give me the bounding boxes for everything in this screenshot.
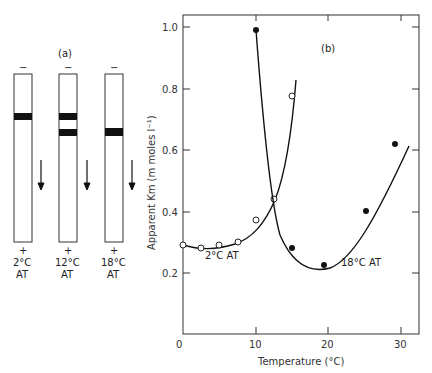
filled-circle-markers — [253, 27, 398, 268]
x-tick: 20 — [321, 339, 334, 350]
y-axis-label: Apparent Km (m moles l⁻¹) — [146, 115, 157, 250]
tube-unit: AT — [16, 269, 29, 280]
gel-tube-2: − + 12°C AT — [55, 62, 80, 280]
series-label-2c: 2°C AT — [205, 250, 240, 261]
y-tick: 0.6 — [162, 145, 178, 156]
gel-band — [14, 113, 32, 120]
gel-band — [59, 113, 77, 120]
tube-temp: 18°C — [101, 257, 126, 268]
curve-18c-at — [256, 30, 409, 269]
minus-sign: − — [64, 62, 72, 73]
y-tick: 0.4 — [162, 207, 178, 218]
down-arrow-icon — [38, 160, 135, 190]
x-tick: 0 — [176, 339, 182, 350]
plus-sign: + — [64, 245, 72, 256]
x-tick: 30 — [394, 339, 407, 350]
tube-unit: AT — [61, 269, 74, 280]
curve-2c-at — [183, 80, 296, 249]
plot-frame — [183, 15, 419, 334]
panel-a: (a) − + 2°C AT − + 12°C AT − + 18°C AT — [13, 48, 135, 280]
tube-unit: AT — [107, 269, 120, 280]
figure: (a) − + 2°C AT − + 12°C AT − + 18°C AT — [0, 0, 432, 373]
minus-sign: − — [19, 62, 27, 73]
y-tick: 0.8 — [162, 84, 178, 95]
x-axis-label: Temperature (°C) — [257, 356, 344, 367]
x-tick: 10 — [249, 339, 262, 350]
panel-b-label: (b) — [321, 43, 335, 54]
y-tick: 1.0 — [162, 22, 178, 33]
minus-sign: − — [110, 62, 118, 73]
panel-b: (b) 0 10 20 30 Temperature (°C) 0.2 0.4 … — [146, 15, 419, 367]
gel-tube-3: − + 18°C AT — [101, 62, 126, 280]
gel-band — [105, 128, 123, 136]
tube-temp: 2°C — [13, 257, 31, 268]
gel-band — [59, 129, 77, 136]
tube-temp: 12°C — [55, 257, 80, 268]
panel-a-label: (a) — [58, 48, 72, 59]
series-label-18c: 18°C AT — [341, 257, 382, 268]
gel-tube-1: − + 2°C AT — [13, 62, 32, 280]
plus-sign: + — [19, 245, 27, 256]
y-tick: 0.2 — [162, 268, 178, 279]
plus-sign: + — [110, 245, 118, 256]
